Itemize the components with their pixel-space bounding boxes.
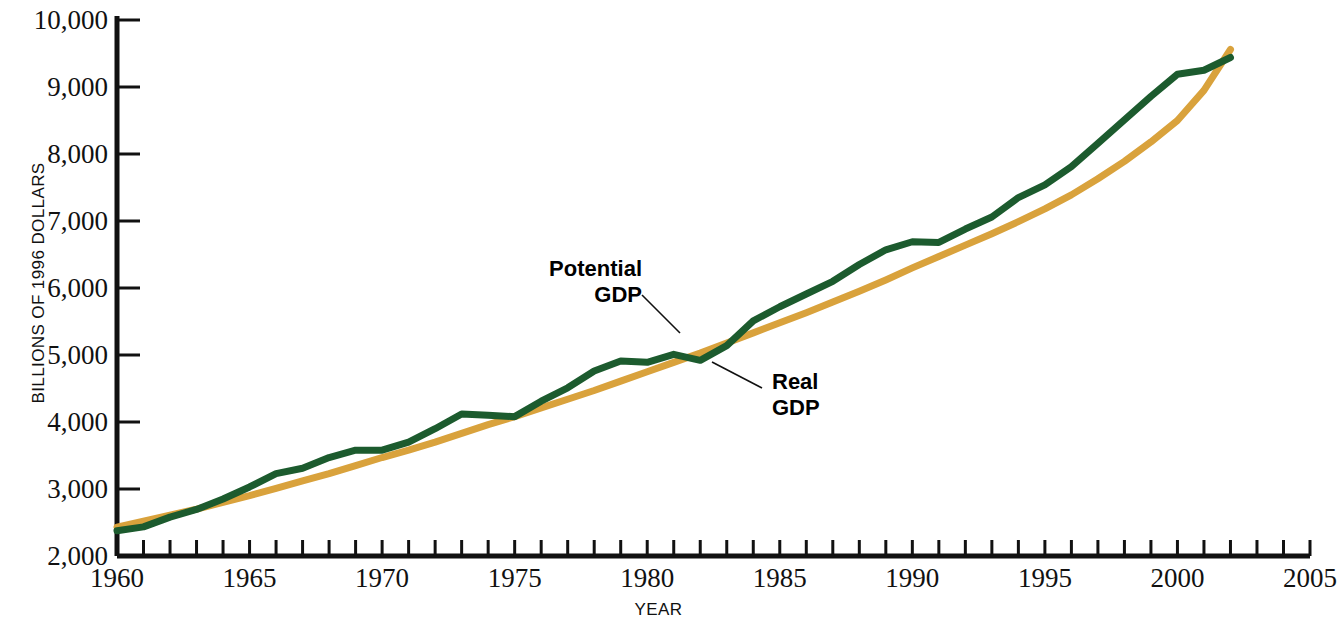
x-axis-tick-label: 1960: [90, 563, 144, 594]
y-axis-title: BILLIONS OF 1996 DOLLARS: [29, 83, 49, 483]
x-axis-tick-label: 1975: [488, 563, 542, 594]
annotation-potential-gdp: Potential GDP: [482, 256, 642, 308]
x-axis-tick-label: 1970: [355, 563, 409, 594]
series-line-real-gdp: [117, 58, 1230, 531]
x-axis-tick-label: 2000: [1150, 563, 1204, 594]
annotation-real-gdp: Real GDP: [772, 369, 912, 421]
y-axis-tick-label: 3,000: [0, 474, 108, 505]
x-axis-title: YEAR: [0, 600, 1317, 618]
leader-line-potential-gdp: [642, 295, 680, 333]
x-axis-tick-label: 1965: [223, 563, 277, 594]
x-axis-tick-label: 1980: [620, 563, 674, 594]
annotation-leader-lines: [642, 295, 762, 388]
y-axis-tick-label: 6,000: [0, 273, 108, 304]
y-axis-ticks: [117, 20, 140, 489]
x-axis-tick-label: 1990: [885, 563, 939, 594]
y-axis-tick-label: 7,000: [0, 206, 108, 237]
x-axis-tick-label: 2005: [1283, 563, 1337, 594]
series-line-potential-gdp: [117, 49, 1230, 527]
chart-axes: [117, 16, 1310, 556]
y-axis-tick-label: 5,000: [0, 340, 108, 371]
y-axis-tick-label: 8,000: [0, 139, 108, 170]
x-axis-tick-label: 1995: [1018, 563, 1072, 594]
y-axis-tick-label: 10,000: [0, 5, 108, 36]
y-axis-tick-label: 4,000: [0, 407, 108, 438]
y-axis-tick-label: 9,000: [0, 72, 108, 103]
x-axis-tick-label: 1985: [753, 563, 807, 594]
chart-series-group: [117, 49, 1230, 530]
leader-line-real-gdp: [712, 362, 762, 388]
